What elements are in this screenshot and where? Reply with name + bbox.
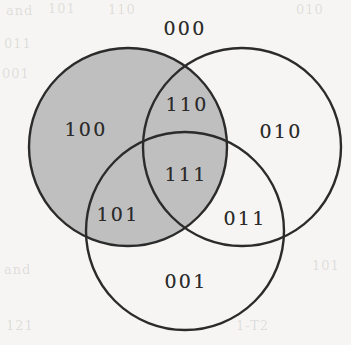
region-label-110: 110 <box>166 95 209 114</box>
region-label-001: 001 <box>165 272 208 291</box>
region-label-101: 101 <box>97 205 140 224</box>
region-label-010: 010 <box>260 122 303 141</box>
region-label-111: 111 <box>165 165 208 184</box>
venn-diagram-figure: and101110010011001and1011211-T2 000 110 … <box>0 0 351 345</box>
region-label-100: 100 <box>65 120 108 139</box>
region-label-000: 000 <box>164 19 207 38</box>
region-label-011: 011 <box>224 209 267 228</box>
